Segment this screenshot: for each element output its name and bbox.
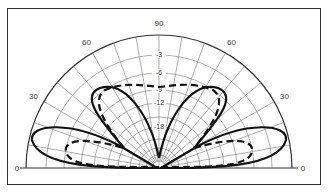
angle-label: 0 (301, 164, 306, 173)
angle-label: 90 (155, 19, 164, 28)
angle-label: 60 (82, 38, 91, 47)
db-label: -12 (154, 99, 164, 106)
angle-label: 30 (280, 92, 289, 101)
angle-label: 0 (15, 164, 20, 173)
db-label: -3 (156, 51, 162, 58)
grid-spoke (57, 83, 154, 164)
angle-label: 60 (227, 38, 236, 47)
angle-label: 30 (29, 92, 38, 101)
polar-chart: 030609060300-3-6-9-12-18 (0, 0, 330, 195)
grid-spoke (93, 53, 156, 162)
grid-spoke (34, 123, 152, 166)
grid-spoke (166, 123, 284, 166)
grid-spoke (163, 53, 226, 162)
db-label: -6 (156, 69, 162, 76)
db-label: -18 (154, 123, 164, 130)
